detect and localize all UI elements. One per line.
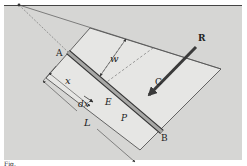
label-c: C xyxy=(155,77,162,87)
diagram: A B C E P R w x dx L Fig. xyxy=(0,0,247,166)
label-b: B xyxy=(161,133,168,143)
label-p: P xyxy=(120,113,128,123)
caption-fragment: Fig. xyxy=(4,160,16,166)
label-w: w xyxy=(110,53,119,64)
apex-point xyxy=(18,4,21,7)
label-e: E xyxy=(104,97,112,107)
label-dx: dx xyxy=(78,99,89,109)
label-l: L xyxy=(83,117,91,128)
label-r: R xyxy=(198,33,206,43)
label-x: x xyxy=(65,75,71,86)
label-a: A xyxy=(55,48,63,58)
